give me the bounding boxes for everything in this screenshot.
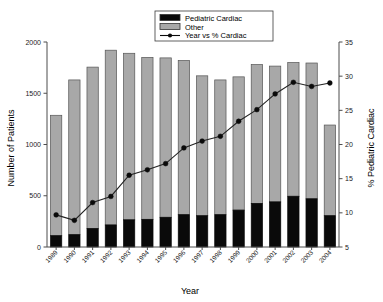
bar-group	[87, 67, 98, 247]
bar-segment-pediatric-cardiac	[215, 215, 226, 247]
bar-group	[251, 65, 262, 247]
stacked-bar-line-chart: 1989199019911992199319941995199619971998…	[0, 0, 383, 302]
percent-data-point	[291, 80, 296, 85]
legend-label-other: Other	[185, 23, 204, 32]
bar-group	[196, 76, 207, 247]
bar-segment-other	[50, 115, 61, 235]
percent-data-point	[254, 107, 259, 112]
percent-data-point	[108, 194, 113, 199]
bar-segment-other	[123, 53, 134, 220]
percent-data-point	[127, 173, 132, 178]
bar-group	[50, 115, 61, 247]
bar-segment-other	[196, 76, 207, 216]
y-axis-right-tick-label: 10	[345, 209, 353, 216]
legend-label-pediatric-cardiac: Pediatric Cardiac	[185, 14, 242, 23]
bar-group	[142, 57, 153, 247]
percent-data-point	[309, 84, 314, 89]
x-axis-title: Year	[181, 286, 199, 296]
bar-segment-pediatric-cardiac	[69, 235, 80, 247]
bar-group	[288, 63, 299, 248]
percent-data-point	[181, 146, 186, 151]
y-axis-left-tick-label: 1000	[25, 141, 41, 148]
bar-segment-other	[69, 80, 80, 235]
chart-legend: Pediatric Cardiac Other Year vs % Cardia…	[155, 11, 273, 41]
y-axis-right-tick-label: 35	[345, 39, 353, 46]
percent-data-point	[327, 81, 332, 86]
bar-segment-pediatric-cardiac	[251, 203, 262, 247]
y-axis-left-title: Number of Patients	[6, 109, 16, 187]
legend-label-year-vs-percent-cardiac: Year vs % Cardiac	[185, 31, 247, 40]
chart-container: 1989199019911992199319941995199619971998…	[0, 0, 383, 302]
y-axis-right-tick-label: 25	[345, 107, 353, 114]
bar-segment-pediatric-cardiac	[288, 196, 299, 247]
bar-segment-other	[269, 66, 280, 202]
bar-group	[123, 53, 134, 247]
percent-data-point	[90, 200, 95, 205]
percent-data-point	[236, 119, 241, 124]
bar-group	[324, 125, 335, 247]
y-axis-right-title: % Pediatric Cardiac	[366, 108, 376, 188]
y-axis-right-tick-label: 20	[345, 141, 353, 148]
percent-data-point	[163, 161, 168, 166]
bar-group	[215, 80, 226, 247]
y-axis-left-tick-label: 500	[29, 192, 41, 199]
bar-segment-pediatric-cardiac	[196, 216, 207, 247]
y-axis-left-tick-label: 0	[37, 244, 41, 251]
percent-data-point	[218, 134, 223, 139]
y-axis-right-tick-label: 30	[345, 73, 353, 80]
bar-segment-other	[160, 58, 171, 217]
bar-segment-pediatric-cardiac	[324, 216, 335, 247]
percent-data-point	[145, 167, 150, 172]
percent-data-point	[54, 212, 59, 217]
legend-swatch-other	[160, 24, 180, 30]
percent-data-point	[72, 218, 77, 223]
bar-group	[306, 63, 317, 247]
bar-segment-pediatric-cardiac	[142, 219, 153, 247]
percent-data-point	[200, 139, 205, 144]
bar-segment-other	[306, 63, 317, 199]
bar-segment-pediatric-cardiac	[105, 225, 116, 247]
percent-data-point	[273, 92, 278, 97]
bar-segment-other	[215, 80, 226, 215]
bar-segment-other	[324, 125, 335, 216]
y-axis-right-tick-label: 15	[345, 175, 353, 182]
bar-segment-pediatric-cardiac	[178, 215, 189, 247]
bar-segment-pediatric-cardiac	[87, 229, 98, 247]
bar-segment-pediatric-cardiac	[306, 199, 317, 247]
y-axis-left-tick-label: 2000	[25, 39, 41, 46]
bar-segment-pediatric-cardiac	[123, 220, 134, 247]
bar-segment-other	[178, 60, 189, 214]
y-axis-right-tick-label: 5	[345, 244, 349, 251]
bar-segment-other	[142, 57, 153, 219]
bar-segment-pediatric-cardiac	[269, 202, 280, 247]
bar-segment-pediatric-cardiac	[160, 217, 171, 247]
bar-group	[178, 60, 189, 247]
legend-swatch-pediatric-cardiac	[160, 15, 180, 21]
bar-segment-other	[233, 77, 244, 210]
bar-segment-other	[251, 65, 262, 204]
bar-segment-pediatric-cardiac	[233, 210, 244, 247]
y-axis-left-tick-label: 1500	[25, 90, 41, 97]
bar-group	[160, 58, 171, 247]
bar-segment-pediatric-cardiac	[50, 236, 61, 247]
bar-group	[105, 50, 116, 247]
bar-group	[233, 77, 244, 247]
